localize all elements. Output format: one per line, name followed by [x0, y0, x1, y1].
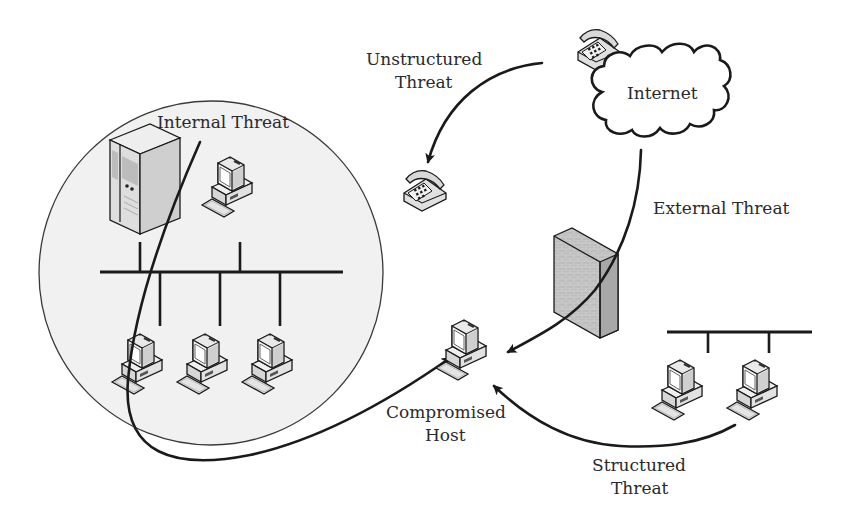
unstructured-threat-label-line1: Unstructured: [366, 49, 482, 69]
firewall-icon: [554, 228, 618, 338]
threat-diagram: Internal Threat Unstructured Threat Inte…: [0, 0, 849, 525]
internet-label: Internet: [627, 83, 698, 103]
compromised-host-label-line2: Host: [425, 425, 466, 445]
external-lan: [667, 332, 812, 353]
compromised-host-label-line1: Compromised: [386, 402, 506, 422]
structured-threat-label-line2: Threat: [611, 478, 669, 498]
external-computer-icon-1: [652, 360, 702, 420]
internal-threat-label: Internal Threat: [157, 112, 289, 132]
external-threat-label: External Threat: [653, 198, 790, 218]
external-computer-icon-2: [727, 360, 777, 420]
compromised-host-computer-icon: [436, 320, 486, 380]
structured-threat-label-line1: Structured: [592, 455, 686, 475]
target-telephone-icon: [404, 171, 446, 211]
unstructured-threat-label-line2: Threat: [395, 72, 453, 92]
